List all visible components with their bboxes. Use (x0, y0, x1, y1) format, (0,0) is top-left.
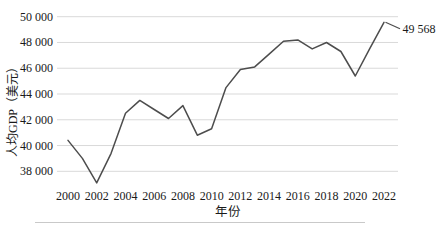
x-axis-title: 年份 (57, 201, 398, 220)
gdp-data-line (68, 22, 384, 183)
y-tick-label: 48 000 (20, 35, 53, 49)
annotation-value-label: 49 568 (403, 22, 436, 36)
y-tick-label: 40 000 (20, 139, 53, 153)
y-tick-label: 50 000 (20, 10, 53, 24)
y-tick-label: 38 000 (20, 164, 53, 178)
gdp-per-capita-line-chart-figure: 38 00040 00042 00044 00046 00048 00050 0… (0, 0, 442, 225)
page-bottom-rule (35, 222, 365, 223)
y-tick-label: 42 000 (20, 113, 53, 127)
y-axis-title: 人均GDP（美元） (3, 49, 19, 169)
y-tick-label: 44 000 (20, 87, 53, 101)
y-tick-label: 46 000 (20, 61, 53, 75)
line-chart-canvas: 38 00040 00042 00044 00046 00048 00050 0… (0, 0, 442, 225)
annotation-leader-line (386, 22, 401, 29)
